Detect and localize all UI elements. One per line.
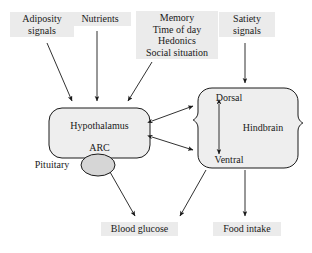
label-nutrients-line1: Nutrients	[71, 13, 129, 25]
label-blood-glucose: Blood glucose	[101, 222, 178, 236]
node-label-hindbrain: Hindbrain	[232, 122, 294, 133]
label-time-of-day: Time of day	[138, 24, 216, 36]
diagram-canvas: Adiposity signals Nutrients Memory Time …	[0, 0, 312, 253]
node-label-hypothalamus: Hypothalamus	[49, 120, 150, 131]
label-satiety-line2: signals	[221, 25, 273, 37]
node-label-dorsal: Dorsal	[203, 92, 255, 103]
arrow-hypothalamus-hindbrain-lower	[152, 137, 193, 150]
label-food-intake: Food intake	[213, 222, 281, 236]
label-hedonics: Hedonics	[138, 35, 216, 47]
label-social-situation: Social situation	[138, 47, 216, 59]
label-adiposity-signals: Adiposity signals	[10, 12, 74, 37]
label-memory: Memory	[138, 12, 216, 24]
arrow-pituitary-to-blood-glucose	[110, 172, 135, 216]
label-adiposity-line1: Adiposity	[12, 13, 72, 25]
label-satiety-signals: Satiety signals	[219, 12, 275, 37]
label-satiety-line1: Satiety	[221, 13, 273, 25]
arrow-adiposity-to-hypothalamus	[47, 43, 72, 101]
arrow-cognitive-to-hypothalamus	[128, 62, 152, 101]
node-label-ventral: Ventral	[203, 154, 255, 165]
label-nutrients: Nutrients	[69, 12, 131, 26]
label-adiposity-line2: signals	[12, 25, 72, 37]
node-label-pituitary: Pituitary	[27, 159, 77, 171]
node-label-arc: ARC	[49, 142, 150, 153]
arrow-hindbrain-to-blood-glucose	[180, 170, 206, 216]
arrow-hypothalamus-hindbrain-upper	[152, 106, 193, 121]
label-cognitive-factors: Memory Time of day Hedonics Social situa…	[136, 11, 218, 59]
